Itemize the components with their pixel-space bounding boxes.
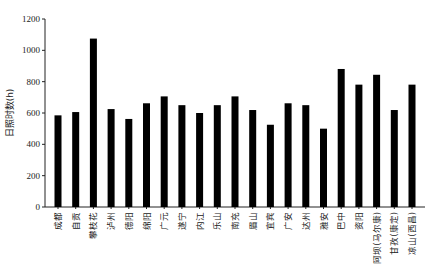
x-axis [45,207,425,209]
bar [72,112,79,207]
bar [161,96,168,207]
bar [355,85,362,207]
x-tick-label: 巴中 [336,212,346,230]
bars [55,39,416,207]
x-tick-label: 自贡 [71,212,81,230]
x-tick-label: 成都 [53,212,63,230]
category-labels: 成都自贡攀枝花泸州德阳绵阳广元遂宁内江乐山南充眉山宜宾广安达州雅安巴中资阳阿坝(… [53,212,417,264]
x-tick-label: 眉山 [248,212,258,230]
y-axis-title: 日照时数(h) [4,89,15,138]
bar [178,105,185,207]
x-tick-label: 凉山(西昌) [407,212,417,255]
x-tick-label: 内江 [195,212,205,230]
y-tick-label: 600 [27,108,41,118]
x-tick-label: 达州 [301,212,311,230]
x-tick-label: 甘孜(康定) [389,212,399,255]
bar [302,105,309,207]
x-tick-label: 攀枝花 [88,212,98,239]
y-tick-label: 1200 [22,14,41,24]
x-tick-label: 遂宁 [177,212,187,230]
bar [338,69,345,207]
y-axis: 020040060080010001200 [22,14,45,212]
bar [320,129,327,207]
x-tick-label: 泸州 [106,212,116,230]
y-tick-label: 200 [27,171,41,181]
x-tick-label: 宜宾 [265,212,275,230]
bar [55,115,62,207]
x-tick-label: 资阳 [354,212,364,230]
y-tick-label: 1000 [22,45,41,55]
bar [391,110,398,207]
bar [232,96,239,207]
x-tick-label: 南充 [230,212,240,230]
x-tick-label: 德阳 [124,212,134,230]
x-tick-label: 阿坝(马尔康) [372,212,382,264]
y-tick-label: 0 [36,202,41,212]
bar-chart: 020040060080010001200 成都自贡攀枝花泸州德阳绵阳广元遂宁内… [0,0,429,274]
x-tick-label: 广元 [159,212,169,230]
y-tick-label: 800 [27,77,41,87]
bar [409,85,416,207]
x-tick-label: 绵阳 [142,212,152,230]
bar [285,103,292,207]
x-tick-label: 广安 [283,212,293,230]
bar [90,39,97,207]
bar [196,113,203,207]
bar [249,110,256,207]
x-tick-label: 乐山 [212,212,222,230]
bar [267,125,274,207]
x-tick-label: 雅安 [319,212,329,230]
bar [108,109,115,207]
bar [373,75,380,207]
bar [125,119,132,207]
bar [214,105,221,207]
y-tick-label: 400 [27,139,41,149]
bar [143,103,150,207]
